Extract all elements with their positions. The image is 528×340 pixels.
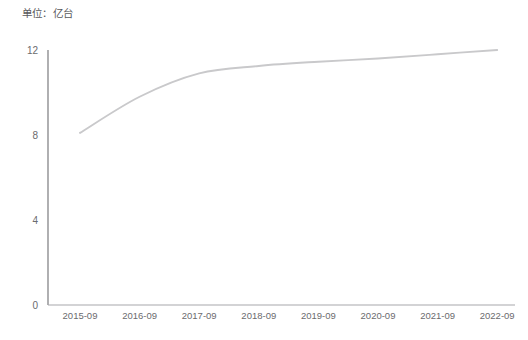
- x-tick-label: 2021-09: [420, 310, 455, 321]
- y-tick-label: 8: [12, 130, 38, 141]
- x-tick-label: 2017-09: [182, 310, 217, 321]
- data-series-line: [80, 50, 497, 133]
- x-tick-label: 2015-09: [63, 310, 98, 321]
- x-tick-label: 2019-09: [301, 310, 336, 321]
- x-tick-label: 2016-09: [122, 310, 157, 321]
- x-tick-label: 2022-09: [480, 310, 515, 321]
- y-tick-label: 0: [12, 300, 38, 311]
- y-tick-label: 12: [12, 45, 38, 56]
- chart-container: 单位：亿台 04812 2015-092016-092017-092018-09…: [0, 0, 528, 340]
- x-tick-label: 2018-09: [241, 310, 276, 321]
- y-tick-label: 4: [12, 215, 38, 226]
- x-tick-label: 2020-09: [361, 310, 396, 321]
- chart-plot-area: [0, 0, 528, 340]
